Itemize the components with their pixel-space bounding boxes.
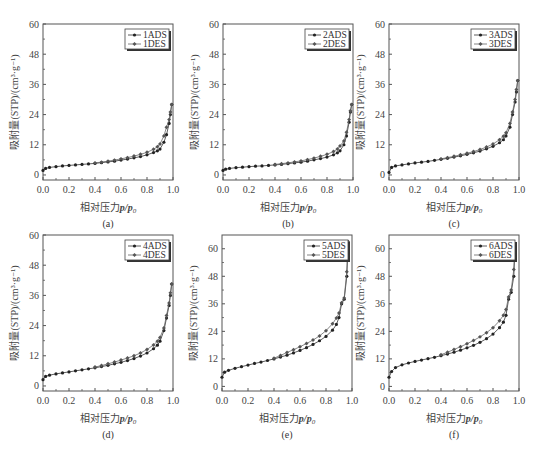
legend-entry: 3DES bbox=[489, 39, 512, 49]
y-tick-label: 24 bbox=[208, 326, 218, 337]
y-tick-label: 0 bbox=[213, 381, 218, 392]
y-axis-label: 吸附量(STP)/(cm³·g⁻¹) bbox=[8, 265, 21, 360]
y-tick-label: 60 bbox=[208, 243, 218, 254]
x-tick-label: 0.8 bbox=[487, 184, 500, 195]
x-tick-label: 0.8 bbox=[320, 395, 333, 406]
chart-panel-c: 012243648600.00.20.40.60.81.0相对压力p/p0吸附量… bbox=[354, 19, 525, 231]
y-tick-label: 24 bbox=[209, 109, 219, 120]
y-tick-label: 24 bbox=[375, 109, 385, 120]
panel-caption: (f) bbox=[449, 429, 459, 441]
legend: 1ADS1DES bbox=[125, 29, 171, 51]
legend-entry: 2DES bbox=[323, 39, 346, 49]
x-axis-label: 相对压力p/p0 bbox=[426, 201, 483, 215]
y-tick-label: 60 bbox=[375, 19, 385, 30]
y-tick-label: 24 bbox=[29, 109, 39, 120]
y-tick-label: 0 bbox=[380, 381, 385, 392]
y-tick-label: 12 bbox=[375, 139, 385, 150]
x-tick-label: 0.8 bbox=[487, 395, 500, 406]
x-tick-label: 1.0 bbox=[346, 395, 359, 406]
x-tick-label: 0.4 bbox=[435, 395, 448, 406]
x-tick-label: 0.8 bbox=[321, 184, 334, 195]
y-tick-label: 48 bbox=[208, 271, 218, 282]
y-tick-label: 48 bbox=[375, 49, 385, 60]
x-tick-label: 1.0 bbox=[167, 184, 180, 195]
y-tick-label: 36 bbox=[29, 79, 39, 90]
x-tick-label: 0.4 bbox=[269, 184, 282, 195]
chart-panel-b: 012243648600.00.20.40.60.81.0相对压力p/p0吸附量… bbox=[188, 19, 359, 231]
x-axis-label: 相对压力p/p0 bbox=[80, 412, 137, 426]
x-tick-label: 0.6 bbox=[461, 184, 474, 195]
panel-caption: (c) bbox=[448, 218, 459, 230]
y-tick-label: 0 bbox=[214, 169, 219, 180]
x-tick-label: 0.2 bbox=[409, 395, 422, 406]
y-tick-label: 60 bbox=[29, 19, 39, 30]
x-tick-label: 0.2 bbox=[63, 184, 76, 195]
y-axis-label: 吸附量(STP)/(cm³·g⁻¹) bbox=[188, 54, 201, 149]
x-tick-label: 0.0 bbox=[37, 184, 50, 195]
y-axis-label: 吸附量(STP)/(cm³·g⁻¹) bbox=[354, 54, 367, 149]
y-tick-label: 24 bbox=[375, 326, 385, 337]
x-tick-label: 0.2 bbox=[242, 395, 255, 406]
y-tick-label: 12 bbox=[208, 353, 218, 364]
legend: 2ADS2DES bbox=[305, 29, 351, 51]
y-tick-label: 60 bbox=[29, 230, 39, 241]
chart-panel-e: 012243648600.00.20.40.60.81.0相对压力p/p0吸附量… bbox=[187, 235, 358, 441]
x-axis-label: 相对压力p/p0 bbox=[260, 201, 317, 215]
x-tick-label: 1.0 bbox=[167, 395, 180, 406]
x-tick-label: 0.0 bbox=[383, 395, 396, 406]
y-axis-label: 吸附量(STP)/(cm³·g⁻¹) bbox=[354, 265, 367, 360]
panel-caption: (a) bbox=[102, 218, 113, 230]
y-tick-label: 48 bbox=[29, 260, 39, 271]
x-tick-label: 0.0 bbox=[217, 184, 230, 195]
y-tick-label: 36 bbox=[29, 290, 39, 301]
x-tick-label: 0.8 bbox=[141, 395, 154, 406]
x-tick-label: 1.0 bbox=[513, 395, 526, 406]
series-3ADS bbox=[387, 79, 519, 174]
x-tick-label: 0.6 bbox=[294, 395, 307, 406]
y-tick-label: 60 bbox=[375, 243, 385, 254]
x-tick-label: 0.4 bbox=[89, 184, 102, 195]
y-tick-label: 48 bbox=[29, 49, 39, 60]
x-tick-label: 0.0 bbox=[216, 395, 229, 406]
x-axis-label: 相对压力p/p0 bbox=[426, 412, 483, 426]
chart-panel-f: 012243648600.00.20.40.60.81.0相对压力p/p0吸附量… bbox=[354, 235, 525, 441]
y-tick-label: 24 bbox=[29, 320, 39, 331]
series-2DES bbox=[273, 103, 354, 167]
y-tick-label: 60 bbox=[209, 19, 219, 30]
x-tick-label: 0.8 bbox=[141, 184, 154, 195]
y-tick-label: 0 bbox=[34, 380, 39, 391]
y-tick-label: 48 bbox=[375, 271, 385, 282]
y-tick-label: 48 bbox=[209, 49, 219, 60]
y-tick-label: 36 bbox=[375, 298, 385, 309]
x-axis-label: 相对压力p/p0 bbox=[259, 412, 316, 426]
y-tick-label: 36 bbox=[375, 79, 385, 90]
legend: 6ADS6DES bbox=[471, 240, 517, 262]
series-4ADS bbox=[41, 282, 173, 381]
y-axis-label: 吸附量(STP)/(cm³·g⁻¹) bbox=[8, 54, 21, 149]
x-tick-label: 1.0 bbox=[513, 184, 526, 195]
chart-panel-d: 012243648600.00.20.40.60.81.0相对压力p/p0吸附量… bbox=[8, 230, 179, 442]
legend-entry: 4DES bbox=[143, 250, 166, 260]
x-tick-label: 0.4 bbox=[268, 395, 281, 406]
y-tick-label: 12 bbox=[29, 350, 39, 361]
y-tick-label: 12 bbox=[209, 139, 219, 150]
figure-canvas: 012243648600.00.20.40.60.81.0相对压力p/p0吸附量… bbox=[0, 0, 536, 449]
y-tick-label: 12 bbox=[375, 353, 385, 364]
x-tick-label: 0.4 bbox=[89, 395, 102, 406]
legend-entry: 1DES bbox=[143, 39, 166, 49]
y-tick-label: 36 bbox=[208, 298, 218, 309]
legend: 3ADS3DES bbox=[471, 29, 517, 51]
panel-caption: (d) bbox=[102, 429, 114, 441]
panel-caption: (b) bbox=[282, 218, 294, 230]
legend: 4ADS4DES bbox=[125, 240, 171, 262]
legend: 5ADS5DES bbox=[304, 240, 350, 262]
series-4DES bbox=[93, 282, 174, 369]
x-tick-label: 0.2 bbox=[63, 395, 76, 406]
y-tick-label: 12 bbox=[29, 139, 39, 150]
x-tick-label: 1.0 bbox=[347, 184, 360, 195]
x-tick-label: 0.6 bbox=[115, 184, 128, 195]
series-1DES bbox=[93, 103, 174, 165]
chart-panel-a: 012243648600.00.20.40.60.81.0相对压力p/p0吸附量… bbox=[8, 19, 179, 231]
y-tick-label: 0 bbox=[34, 169, 39, 180]
panel-caption: (e) bbox=[281, 429, 292, 441]
